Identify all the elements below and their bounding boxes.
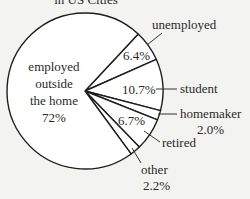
- label-other: other: [141, 162, 168, 177]
- pie-chart: in US Cities employed outside the home 7…: [0, 0, 250, 199]
- label-homemaker-pct: 2.0%: [197, 122, 224, 137]
- label-employed-line3: the home: [30, 93, 78, 108]
- label-student-pct: 10.7%: [122, 82, 156, 97]
- label-unemployed: unemployed: [152, 17, 217, 32]
- callout-unemployed: [147, 33, 162, 45]
- label-student: student: [180, 81, 218, 96]
- chart-title: in US Cities: [54, 0, 118, 7]
- label-retired-pct: 6.7%: [118, 113, 145, 128]
- label-unemployed-pct: 6.4%: [123, 48, 150, 63]
- label-employed-line2: outside: [35, 76, 73, 91]
- label-employed-line1: employed: [28, 59, 80, 74]
- label-homemaker: homemaker: [180, 106, 242, 121]
- label-employed-pct: 72%: [42, 110, 66, 125]
- label-other-pct: 2.2%: [143, 178, 170, 193]
- label-retired: retired: [162, 135, 196, 150]
